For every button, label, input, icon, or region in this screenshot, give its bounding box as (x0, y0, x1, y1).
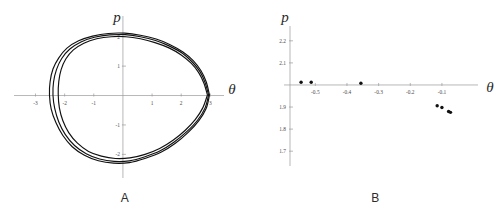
panel-a-caption: A (0, 191, 250, 205)
panel-a-x-tick-label: -3 (33, 100, 38, 106)
panel-b-y-tick-label: 1.9 (279, 104, 286, 110)
panel-a-x-tick-label: 2 (180, 100, 183, 106)
panel-b-y-tick-label: 2.2 (279, 38, 286, 44)
panel-a-y-tick-label: 1 (117, 63, 120, 69)
panel-b-x-tick-label: -0.1 (438, 89, 447, 95)
panel-b-x-tick-label: -0.2 (406, 89, 415, 95)
panel-a-orbits (49, 33, 209, 163)
panel-b-axes: -0.5-0.4-0.3-0.2-0.12.22.11.91.81.7 (279, 26, 478, 166)
panel-b-plot: -0.5-0.4-0.3-0.2-0.12.22.11.91.81.7 p θ (250, 0, 501, 190)
panel-a-y-axis-label: p (112, 9, 121, 25)
panel-b-y-tick-label: 2.1 (279, 60, 286, 66)
scatter-point (299, 81, 302, 84)
panel-b-y-tick-label: 1.8 (279, 126, 286, 132)
panel-a-x-tick-label: 3 (209, 100, 212, 106)
panel-a-x-tick-label: -2 (62, 100, 67, 106)
panel-b-x-tick-label: -0.3 (374, 89, 383, 95)
panel-b-datapoints (299, 81, 452, 114)
scatter-point (440, 106, 443, 109)
scatter-point (449, 111, 452, 114)
panel-a-y-tick-label: -1 (115, 122, 120, 128)
scatter-point (435, 104, 438, 107)
panel-b-x-tick-label: -0.4 (343, 89, 352, 95)
panel-a-x-tick-label: -1 (92, 100, 97, 106)
scatter-point (359, 82, 362, 85)
panel-b-x-axis-label: θ (486, 79, 494, 95)
panel-b-x-tick-label: -0.5 (311, 89, 320, 95)
panel-a-plot: -3-2-112312-1-2 p θ (0, 0, 250, 190)
panel-a: -3-2-112312-1-2 p θ A (0, 0, 250, 213)
panel-a-x-tick-label: 1 (151, 100, 154, 106)
figure-container: -3-2-112312-1-2 p θ A -0.5-0.4-0.3-0.2-0… (0, 0, 501, 213)
panel-b: -0.5-0.4-0.3-0.2-0.12.22.11.91.81.7 p θ … (250, 0, 501, 213)
panel-b-y-axis-label: p (280, 9, 289, 25)
panel-a-x-axis-label: θ (228, 81, 236, 97)
panel-a-y-tick-label: -2 (115, 151, 120, 157)
panel-a-axes: -3-2-112312-1-2 (14, 16, 224, 178)
scatter-point (310, 81, 313, 84)
panel-b-y-tick-label: 1.7 (279, 148, 286, 154)
panel-b-caption: B (250, 191, 501, 205)
